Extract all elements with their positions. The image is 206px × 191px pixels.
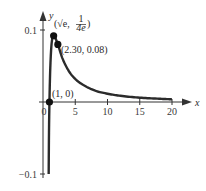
max-point-marker (50, 32, 57, 39)
y-tick-label: −0.1 (19, 169, 37, 180)
root-point-marker (46, 98, 53, 105)
x-tick-label: 20 (167, 106, 177, 117)
y-axis-arrow-icon (40, 11, 47, 21)
function-curve (49, 36, 172, 174)
x-tick-label: 15 (135, 106, 145, 117)
annotation-max-open: (√e, (54, 18, 70, 30)
y-tick-label: 0.1 (25, 25, 38, 36)
x-tick-label: 0 (42, 106, 47, 117)
annotation-point-2-30: (2.30, 0.08) (61, 44, 108, 56)
x-axis-label: x (194, 97, 200, 108)
x-tick-label: 5 (73, 106, 78, 117)
annotation-max-frac-den: 4e (76, 22, 86, 33)
x-axis-arrow-icon (182, 99, 192, 106)
annotation-root-point: (1, 0) (52, 88, 74, 100)
annotation-max-point: (√e, 1 4e ) (54, 13, 90, 33)
annotation-max-close: ) (87, 18, 90, 30)
x-tick-label: 10 (103, 106, 113, 117)
y-axis (40, 11, 47, 178)
chart-canvas: 05101520 0.1−0.1 x y (√e, 1 4e ) (2.30, … (0, 0, 206, 191)
